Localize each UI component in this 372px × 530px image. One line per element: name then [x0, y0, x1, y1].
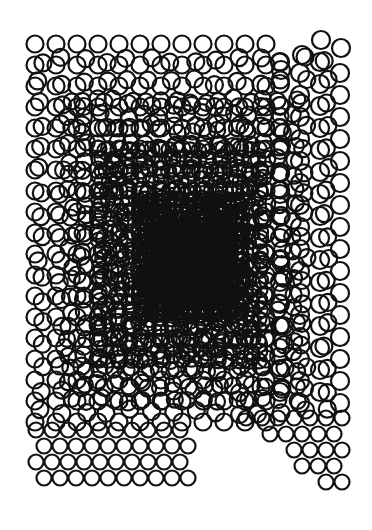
- generative-circle-artwork: [0, 0, 372, 530]
